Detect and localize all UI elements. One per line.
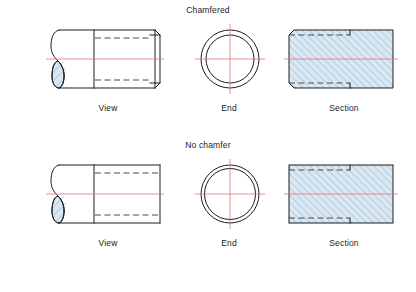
- section-hatch: [288, 24, 400, 96]
- drawing-sheet: Chamfered No chamfer: [0, 0, 416, 292]
- caption-view-chamfered: View: [58, 103, 158, 113]
- caption-end-chamfered: End: [185, 103, 273, 113]
- figure-section-chamfered: [288, 24, 400, 96]
- figure-section-no-chamfer: [288, 159, 400, 231]
- section2-hatch: [288, 159, 400, 231]
- row-title-chamfered: Chamfered: [0, 5, 416, 15]
- caption-section-chamfered: Section: [288, 103, 400, 113]
- caption-section-no-chamfer: Section: [288, 238, 400, 248]
- caption-view-no-chamfer: View: [58, 238, 158, 248]
- figure-view-chamfered: [50, 24, 166, 96]
- row-title-no-chamfer: No chamfer: [0, 140, 416, 150]
- caption-end-no-chamfer: End: [185, 238, 273, 248]
- figure-end-no-chamfer: [186, 159, 274, 231]
- figure-view-no-chamfer: [50, 159, 166, 231]
- figure-end-chamfered: [186, 24, 274, 96]
